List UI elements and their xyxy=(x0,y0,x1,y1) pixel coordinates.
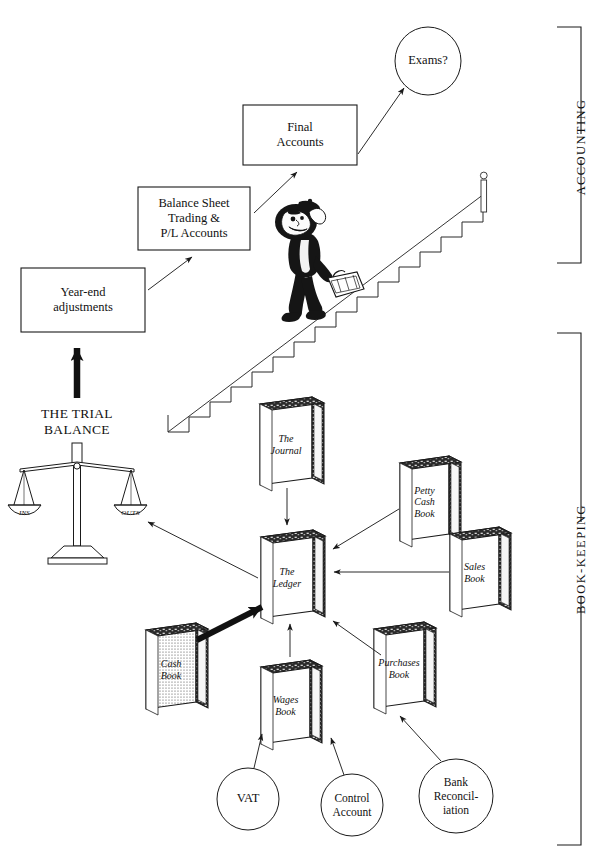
arrow-ledger-to-trial xyxy=(148,522,258,578)
scales-pivot xyxy=(74,463,80,469)
vat-ellipse xyxy=(217,768,279,830)
scales-right-pan xyxy=(114,505,147,515)
climbing-man-figure xyxy=(275,199,364,322)
year-end-adjustments-box xyxy=(21,268,145,332)
arrow-petty-to-ledger xyxy=(333,509,399,549)
balance-sheet-box xyxy=(138,187,250,250)
newel-post xyxy=(480,172,487,212)
scales-post xyxy=(74,466,81,546)
bracket-label-accounting: ACCOUNTING xyxy=(574,99,589,196)
arrow-control-to-wages xyxy=(331,738,344,775)
book-the-ledger xyxy=(261,530,325,624)
diagram-canvas: Final Accounts Balance Sheet Trading & P… xyxy=(0,0,604,866)
book-wages-book xyxy=(261,660,322,750)
arrow-yearend-to-balance xyxy=(148,257,192,290)
diagram-graphics xyxy=(0,0,604,866)
book-the-journal xyxy=(260,397,324,491)
arrow-vat-to-book xyxy=(254,734,262,768)
scales-base xyxy=(51,546,104,558)
trial-balance-scales xyxy=(8,443,147,564)
suitcase xyxy=(328,271,364,297)
control-account-ellipse xyxy=(321,774,383,836)
exams-ellipse xyxy=(395,27,461,95)
thick-arrows xyxy=(77,348,262,640)
scales-left-pan xyxy=(8,505,41,515)
bracket-label-book-keeping: BOOK-KEEPING xyxy=(574,504,589,614)
book-purchases-book xyxy=(374,622,436,714)
final-accounts-box xyxy=(243,105,357,165)
arrow-bank-to-purchases xyxy=(400,716,441,761)
arrow-final-to-exams xyxy=(358,88,404,154)
book-sales-book xyxy=(450,527,511,617)
bank-reconciliation-ellipse xyxy=(419,759,493,833)
arrow-cash-to-ledger xyxy=(197,607,262,640)
